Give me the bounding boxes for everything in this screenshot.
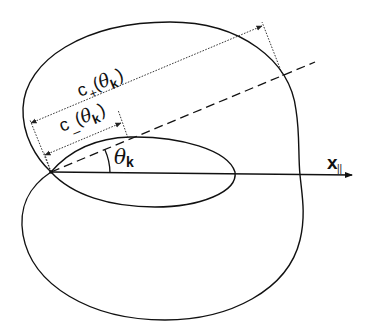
origin-point [49,170,53,174]
angle-arc [105,150,110,173]
outer-curve [22,22,303,320]
angle-theta-sub: k [126,154,134,170]
wave-surface-diagram: c + ( θ k ) c _ ( θ k ) θ k x || [0,0,369,335]
x-axis-arrow [51,172,352,175]
x-parallel-label: x || [327,152,342,174]
axis-x-sub: || [337,163,342,174]
theta-k-label: θ k [114,145,134,170]
extension-line-origin-outer [30,120,51,172]
angle-theta: θ [114,145,126,169]
c-minus-label: c _ ( θ k ) [56,98,110,139]
extension-line-inner-lobe [118,110,128,138]
extension-line-outer-curve [262,22,283,76]
c-plus-dimension-line [31,26,262,123]
c-plus-label: c + ( θ k ) [74,63,128,105]
